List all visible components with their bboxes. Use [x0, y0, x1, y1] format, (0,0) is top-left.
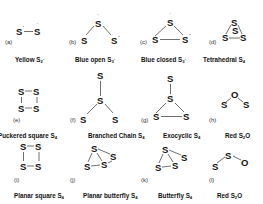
- svg-text:S: S: [153, 111, 159, 122]
- svg-text:S: S: [222, 32, 228, 43]
- svg-text:-: -: [23, 23, 25, 29]
- svg-text:S: S: [95, 18, 101, 29]
- panel-i-tag: (i): [14, 177, 19, 183]
- svg-text:S: S: [110, 151, 116, 162]
- svg-text:S: S: [16, 26, 22, 37]
- caption-branched-chain-s4: Branched Chain S4: [88, 132, 145, 140]
- svg-text:·: ·: [170, 10, 172, 16]
- svg-text:S: S: [167, 17, 173, 28]
- molecule-h: S O S: [221, 89, 249, 110]
- molecule-f: S S S S: [80, 70, 118, 125]
- svg-text:S: S: [97, 70, 103, 81]
- panel-j-tag: (j): [70, 177, 75, 183]
- svg-text:·: ·: [98, 11, 100, 17]
- svg-text:S: S: [91, 143, 97, 154]
- svg-text:S: S: [20, 161, 26, 172]
- svg-text:S: S: [80, 114, 86, 125]
- molecule-k: S S S S: [155, 144, 187, 173]
- svg-text:S: S: [35, 141, 41, 152]
- molecule-b: S · S - S: [81, 11, 120, 46]
- svg-text:S: S: [84, 161, 90, 172]
- caption-blue-closed-s3: Blue closed S3-: [141, 56, 186, 64]
- svg-text:S: S: [20, 141, 26, 152]
- panel-g-tag: (g): [141, 117, 148, 123]
- svg-text:S: S: [97, 95, 103, 106]
- svg-text:S: S: [81, 35, 87, 46]
- svg-text:S: S: [111, 35, 117, 46]
- caption-planar-butterfly-s4: Planar butterfly S4: [83, 192, 137, 200]
- molecule-g: S S S S: [153, 73, 189, 122]
- molecule-c: S · S - S: [152, 10, 191, 45]
- svg-text:S: S: [167, 93, 173, 104]
- svg-text:S: S: [112, 114, 118, 125]
- svg-text:S: S: [240, 32, 246, 43]
- panel-c-tag: (c): [140, 39, 147, 45]
- molecule-e: S S S S: [18, 86, 39, 114]
- svg-text:S: S: [182, 34, 188, 45]
- molecule-d: S S S S: [222, 17, 246, 43]
- panel-e-tag: (e): [13, 117, 20, 123]
- panel-l-tag: (l): [209, 177, 214, 183]
- svg-text:S: S: [34, 26, 40, 37]
- panel-d-tag: (d): [209, 39, 216, 45]
- caption-butterfly-s4: Butterfly S4: [158, 192, 192, 200]
- svg-text:S: S: [181, 152, 187, 163]
- caption-puckered-square-s4: Puckered square S4: [0, 132, 57, 140]
- panel-f-tag: (f): [70, 117, 76, 123]
- svg-text:S: S: [35, 161, 41, 172]
- panel-a-tag: (a): [5, 39, 12, 45]
- svg-text:S: S: [167, 73, 173, 84]
- svg-text:S: S: [152, 34, 158, 45]
- svg-text:S: S: [155, 162, 161, 173]
- svg-text:-: -: [189, 31, 191, 37]
- svg-text:S: S: [225, 150, 231, 161]
- molecule-i: S S S S: [20, 141, 41, 172]
- caption-tetrahedral-s4: Tetrahedral S4: [203, 56, 245, 64]
- caption-red-s2o-1: Red S2O: [225, 132, 250, 140]
- svg-text:S: S: [18, 86, 24, 97]
- svg-text:S: S: [221, 99, 227, 110]
- caption-exocyclic-s4: Exocyclic S4: [163, 132, 200, 140]
- svg-text:-: -: [118, 33, 120, 39]
- panel-h-tag: (h): [209, 117, 216, 123]
- svg-text:S: S: [162, 144, 168, 155]
- svg-text:S: S: [243, 99, 249, 110]
- svg-text:S: S: [183, 111, 189, 122]
- caption-red-s2o-2: Red S2O: [217, 192, 242, 200]
- svg-text:S: S: [33, 103, 39, 114]
- molecule-a: S - S ·: [16, 20, 40, 37]
- svg-text:S: S: [33, 86, 39, 97]
- molecule-j: S S S S: [84, 143, 116, 172]
- caption-blue-open-s3: Blue open S3-: [75, 56, 115, 64]
- caption-planar-square-s4: Planar square S4: [14, 192, 64, 200]
- svg-text:O: O: [231, 89, 238, 100]
- svg-text:S: S: [18, 103, 24, 114]
- panel-b-tag: (b): [69, 39, 76, 45]
- svg-text:O: O: [241, 157, 248, 168]
- svg-text:S: S: [232, 25, 238, 36]
- molecule-l: S S O: [212, 150, 248, 172]
- panel-k-tag: (k): [141, 177, 148, 183]
- caption-yellow-s2: Yellow S2-: [15, 56, 44, 64]
- molecule-drawings: S - S · S · S - S S · S - S S S S S S S: [0, 0, 263, 204]
